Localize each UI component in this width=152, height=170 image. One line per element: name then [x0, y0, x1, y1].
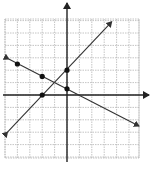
line-2-point — [40, 92, 45, 97]
line-2-point — [64, 68, 69, 73]
plotted-lines — [7, 22, 138, 132]
line-2 — [7, 22, 111, 132]
grid-border — [5, 19, 139, 158]
line-1-point — [15, 61, 20, 66]
grid-lines — [5, 19, 139, 158]
line-1 — [9, 59, 139, 126]
line-1-point — [40, 74, 45, 79]
coordinate-graph — [0, 0, 152, 170]
line-1-point — [64, 86, 69, 91]
